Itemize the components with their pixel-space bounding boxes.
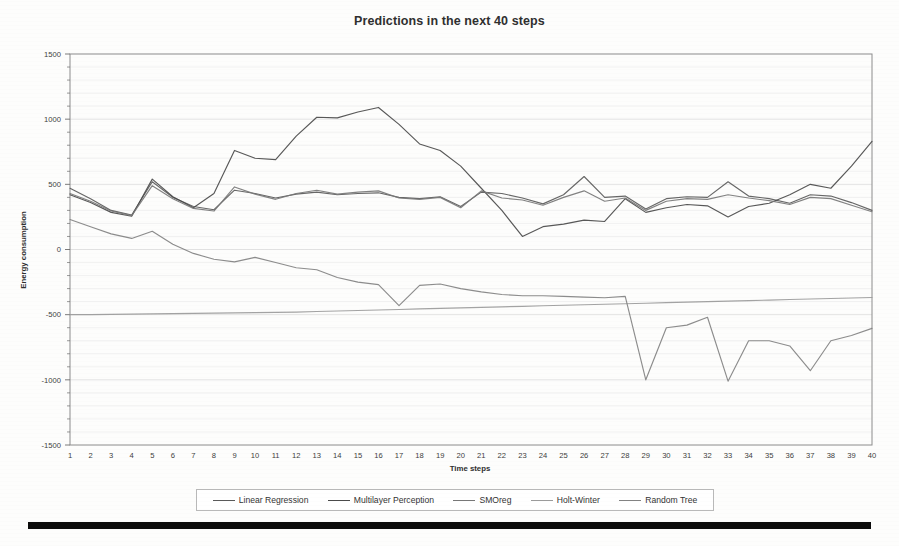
y-tick-label: -1500 <box>42 441 61 450</box>
x-tick-label: 20 <box>456 451 464 460</box>
legend-item-linear-regression[interactable]: Linear Regression <box>213 495 309 505</box>
series-line-holt-winter <box>70 297 872 314</box>
x-tick-label: 26 <box>580 451 588 460</box>
y-tick-label: -1000 <box>42 376 61 385</box>
x-tick-label: 9 <box>232 451 236 460</box>
x-axis-tick-labels: 1234567891011121314151617181920212223242… <box>68 451 876 460</box>
y-tick-label: 500 <box>48 180 61 189</box>
legend-label: Holt-Winter <box>557 495 600 505</box>
legend-item-multilayer-perception[interactable]: Multilayer Perception <box>328 495 434 505</box>
series-line-linear-regression <box>70 177 872 215</box>
legend-item-random-tree[interactable]: Random Tree <box>619 495 697 505</box>
legend-item-holt-winter[interactable]: Holt-Winter <box>531 495 600 505</box>
x-axis-title: Time steps <box>450 464 491 473</box>
legend-label: Multilayer Perception <box>354 495 434 505</box>
legend-swatch-icon <box>531 500 553 501</box>
y-axis-tick-labels: 150010005000-500-1000-1500 <box>42 50 61 450</box>
x-tick-label: 30 <box>662 451 670 460</box>
data-series-layer <box>70 107 872 381</box>
x-tick-label: 1 <box>68 451 72 460</box>
x-tick-label: 36 <box>786 451 794 460</box>
x-tick-label: 6 <box>171 451 175 460</box>
x-tick-label: 33 <box>724 451 732 460</box>
y-axis-ticks <box>65 54 70 445</box>
legend-swatch-icon <box>328 500 350 501</box>
x-tick-label: 22 <box>498 451 506 460</box>
x-tick-label: 34 <box>744 451 752 460</box>
legend-swatch-icon <box>213 500 235 501</box>
line-chart-svg: 150010005000-500-1000-1500 1234567891011… <box>0 0 899 546</box>
x-tick-label: 3 <box>109 451 113 460</box>
x-tick-label: 2 <box>88 451 92 460</box>
y-tick-label: 1000 <box>44 115 61 124</box>
x-tick-label: 11 <box>272 451 280 460</box>
x-tick-label: 5 <box>150 451 154 460</box>
x-tick-label: 15 <box>354 451 362 460</box>
legend-label: SMOreg <box>479 495 511 505</box>
x-tick-label: 40 <box>868 451 876 460</box>
x-tick-label: 19 <box>436 451 444 460</box>
x-tick-label: 32 <box>703 451 711 460</box>
page-footer-rule <box>28 522 871 529</box>
x-tick-label: 8 <box>212 451 216 460</box>
legend-label: Random Tree <box>645 495 697 505</box>
x-tick-label: 17 <box>395 451 403 460</box>
chart-legend: Linear Regression Multilayer Perception … <box>196 489 714 511</box>
legend-item-smoreg[interactable]: SMOreg <box>453 495 511 505</box>
y-tick-label: 1500 <box>44 50 61 59</box>
x-tick-label: 39 <box>847 451 855 460</box>
x-tick-label: 12 <box>292 451 300 460</box>
x-tick-label: 14 <box>333 451 341 460</box>
x-tick-label: 35 <box>765 451 773 460</box>
x-tick-label: 10 <box>251 451 259 460</box>
x-tick-label: 16 <box>374 451 382 460</box>
series-line-multilayer-perception <box>70 107 872 236</box>
y-axis-title: Energy consumption <box>19 211 28 289</box>
x-tick-label: 28 <box>621 451 629 460</box>
chart-plot-container: 150010005000-500-1000-1500 1234567891011… <box>0 0 899 546</box>
x-tick-label: 31 <box>683 451 691 460</box>
x-tick-label: 4 <box>130 451 134 460</box>
y-tick-label: -500 <box>46 310 61 319</box>
x-tick-label: 18 <box>415 451 423 460</box>
y-tick-label: 0 <box>57 245 61 254</box>
legend-label: Linear Regression <box>239 495 309 505</box>
legend-swatch-icon <box>619 500 641 501</box>
x-tick-label: 24 <box>539 451 547 460</box>
x-tick-label: 7 <box>191 451 195 460</box>
x-tick-label: 21 <box>477 451 485 460</box>
x-tick-label: 38 <box>827 451 835 460</box>
x-tick-label: 23 <box>518 451 526 460</box>
x-tick-label: 25 <box>559 451 567 460</box>
legend-swatch-icon <box>453 500 475 501</box>
x-tick-label: 37 <box>806 451 814 460</box>
series-line-smoreg <box>70 186 872 216</box>
x-tick-label: 13 <box>313 451 321 460</box>
x-tick-label: 29 <box>642 451 650 460</box>
x-tick-label: 27 <box>600 451 608 460</box>
